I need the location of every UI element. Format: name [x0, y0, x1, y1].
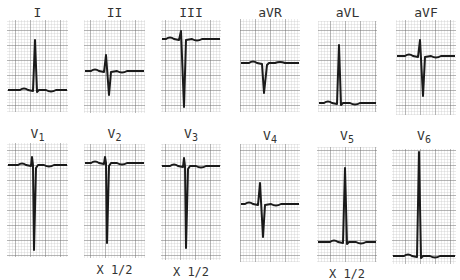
lead-label-avf: aVF: [414, 6, 437, 19]
lead-panel-v6: [392, 149, 456, 264]
lead-name: V: [31, 126, 39, 141]
lead-label-v2: V2: [108, 127, 122, 143]
lead-label-iii: III: [179, 6, 202, 19]
lead-name: II: [107, 5, 123, 20]
lead-panel-avl: [318, 21, 377, 112]
grid-paper: [161, 144, 221, 260]
grid-paper: [7, 20, 68, 112]
lead-label-v5: V5: [340, 129, 354, 145]
lead-subscript: 2: [115, 132, 121, 143]
lead-name: V: [263, 128, 271, 143]
lead-panel-v3: [161, 144, 221, 260]
lead-name: V: [340, 128, 348, 143]
lead-name: aVF: [414, 5, 437, 20]
lead-label-i: I: [34, 6, 42, 19]
scale-note-v5: X 1/2: [329, 268, 365, 280]
lead-panel-ii: [84, 20, 145, 113]
lead-name: III: [179, 5, 202, 20]
grid-paper: [84, 20, 145, 113]
lead-subscript: 5: [348, 134, 354, 145]
lead-name: V: [184, 126, 192, 141]
lead-label-v6: V6: [417, 129, 431, 145]
scale-note-v3: X 1/2: [173, 266, 209, 278]
lead-label-ii: II: [107, 6, 123, 19]
lead-panel-v1: [7, 143, 68, 257]
lead-panel-iii: [161, 20, 221, 112]
scale-note-v2: X 1/2: [96, 264, 132, 276]
grid-paper: [318, 21, 377, 112]
grid-paper: [7, 143, 68, 257]
grid-paper: [240, 19, 300, 112]
lead-panel-v2: [84, 144, 145, 258]
ecg-figure: [0, 0, 460, 280]
lead-panel-v5: [317, 147, 377, 262]
lead-label-v1: V1: [31, 127, 45, 143]
lead-name: V: [108, 126, 116, 141]
grid-paper: [396, 20, 456, 115]
grid-paper: [392, 149, 456, 264]
lead-name: aVL: [336, 5, 359, 20]
lead-panel-v4: [240, 144, 300, 262]
lead-label-avl: aVL: [336, 6, 359, 19]
lead-label-v4: V4: [263, 129, 277, 145]
lead-subscript: 6: [425, 134, 431, 145]
lead-name: V: [417, 128, 425, 143]
lead-name: aVR: [258, 5, 281, 20]
lead-label-avr: aVR: [258, 6, 281, 19]
lead-label-v3: V3: [184, 127, 198, 143]
lead-panel-avf: [396, 20, 456, 115]
lead-subscript: 4: [271, 134, 277, 145]
lead-panel-avr: [240, 19, 300, 112]
lead-panel-i: [7, 20, 68, 112]
lead-name: I: [34, 5, 42, 20]
grid-paper: [161, 20, 221, 112]
lead-subscript: 3: [192, 132, 198, 143]
lead-subscript: 1: [38, 132, 44, 143]
